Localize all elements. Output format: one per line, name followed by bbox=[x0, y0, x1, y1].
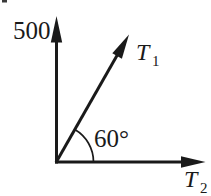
t1-label-subscript: 1 bbox=[152, 53, 160, 69]
t1-label: T bbox=[136, 39, 151, 65]
t2-label: T bbox=[184, 166, 199, 192]
t2-vector-arrow bbox=[55, 156, 206, 168]
cropped-edge-artifact bbox=[2, 0, 7, 3]
vector-diagram: 500 T 1 60° T 2 bbox=[0, 0, 211, 196]
angle-arc bbox=[75, 130, 94, 163]
vertical-force-arrow bbox=[51, 16, 62, 164]
angle-value-label: 60° bbox=[94, 125, 129, 152]
vector-diagram-svg: 500 T 1 60° T 2 bbox=[0, 0, 211, 196]
t2-label-subscript: 2 bbox=[200, 180, 208, 196]
force-magnitude-label: 500 bbox=[13, 17, 51, 44]
vertical-arrow-head-icon bbox=[51, 16, 62, 43]
t1-arrow-head-icon bbox=[112, 35, 129, 59]
